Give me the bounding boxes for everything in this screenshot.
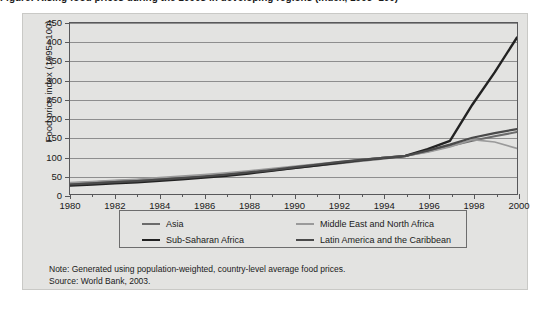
plot-area: 0501001502002503003504004501980198219841…	[69, 22, 518, 195]
note-text: Note: Generated using population-weighte…	[49, 264, 519, 276]
series-line	[70, 129, 517, 184]
figure-title: Figure: Rising food prices during the 19…	[0, 0, 540, 11]
x-axis-tick	[160, 194, 161, 199]
x-axis-tick	[339, 194, 340, 199]
legend-item[interactable]: Latin America and the Caribbean	[296, 233, 451, 246]
y-axis-tick-label: 150	[46, 134, 62, 144]
x-axis-tick-label: 2000	[508, 201, 529, 211]
legend-swatch	[142, 223, 160, 225]
series-line	[70, 37, 517, 185]
x-axis-tick	[519, 194, 520, 199]
legend-swatch	[296, 223, 314, 225]
y-axis-tick-label: 50	[51, 172, 62, 182]
x-axis-tick	[205, 194, 206, 199]
legend-swatch	[296, 239, 314, 241]
legend-column-1: AsiaSub-Saharan Africa	[142, 217, 244, 249]
legend-label: Sub-Saharan Africa	[166, 235, 244, 245]
x-axis-tick-minor	[182, 194, 183, 197]
x-axis-tick-label: 1980	[59, 201, 80, 211]
legend-label: Middle East and North Africa	[320, 219, 434, 229]
y-axis-tick-label: 100	[46, 153, 62, 163]
y-axis-tick-label: 300	[46, 76, 62, 86]
figure-title-text: Figure: Rising food prices during the 19…	[0, 0, 540, 3]
legend-swatch	[142, 239, 160, 241]
x-axis-tick-minor	[92, 194, 93, 197]
y-axis-tick-label: 400	[46, 37, 62, 47]
source-text: Source: World Bank, 2003.	[49, 276, 519, 288]
x-axis-tick-minor	[452, 194, 453, 197]
x-axis-tick-minor	[227, 194, 228, 197]
y-axis-tick-label: 250	[46, 95, 62, 105]
y-axis-tick-label: 200	[46, 114, 62, 124]
legend-item[interactable]: Sub-Saharan Africa	[142, 233, 244, 246]
x-axis-tick	[250, 194, 251, 199]
x-axis-tick-minor	[497, 194, 498, 197]
legend-item[interactable]: Asia	[142, 217, 244, 230]
x-axis-tick	[384, 194, 385, 199]
x-axis-tick-minor	[272, 194, 273, 197]
x-axis-tick-minor	[362, 194, 363, 197]
figure-notes: Note: Generated using population-weighte…	[49, 264, 519, 287]
x-axis-tick	[115, 194, 116, 199]
figure-container: Figure: Rising food prices during the 19…	[0, 0, 540, 309]
x-axis-tick-minor	[317, 194, 318, 197]
x-axis-tick	[429, 194, 430, 199]
legend-column-2: Middle East and North AfricaLatin Americ…	[296, 217, 451, 249]
chart-panel: Food price index (1995=100) 050100150200…	[22, 13, 528, 290]
x-axis-tick	[70, 194, 71, 199]
x-axis-tick	[295, 194, 296, 199]
legend-label: Latin America and the Caribbean	[320, 235, 451, 245]
x-axis-tick-minor	[407, 194, 408, 197]
y-axis-tick-label: 350	[46, 57, 62, 67]
series-line	[70, 140, 517, 183]
y-axis-tick-label: 450	[46, 18, 62, 28]
x-axis-tick	[474, 194, 475, 199]
legend-label: Asia	[166, 219, 184, 229]
legend-item[interactable]: Middle East and North Africa	[296, 217, 451, 230]
x-axis-tick-minor	[137, 194, 138, 197]
chart-legend: AsiaSub-Saharan Africa Middle East and N…	[119, 210, 467, 248]
line-chart-svg	[70, 23, 517, 194]
